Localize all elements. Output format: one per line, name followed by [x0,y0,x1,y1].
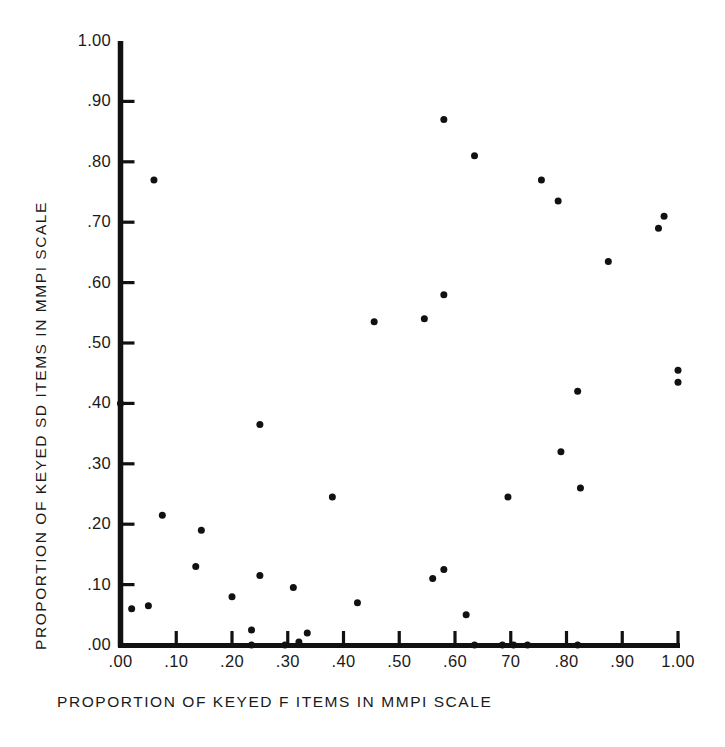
data-point [605,258,612,265]
data-point [655,225,662,232]
data-point [229,593,236,600]
data-point [499,642,506,649]
data-point [574,642,581,649]
x-axis-tick-label: .20 [205,652,259,671]
data-point [192,563,199,570]
data-point [248,626,255,633]
x-axis-title: PROPORTION OF KEYED F ITEMS IN MMPI SCAL… [57,690,677,714]
data-point [429,575,436,582]
y-axis-tick-label: .60 [53,273,111,292]
data-point [471,642,478,649]
x-axis-tick-label: .00 [94,652,148,671]
data-point [510,642,517,649]
x-axis-tick-label: .90 [595,652,649,671]
y-axis-tick-label: .70 [53,212,111,231]
data-point [159,512,166,519]
data-point [555,198,562,205]
y-axis-tick-label: .20 [53,514,111,533]
x-axis-tick-label: .60 [428,652,482,671]
x-axis-tick-label: 1.00 [651,652,705,671]
data-point [150,176,157,183]
x-axis-tick-label: .10 [149,652,203,671]
data-point [421,315,428,322]
data-point [290,584,297,591]
x-axis-tick-label: .30 [261,652,315,671]
x-axis-tick-label: .80 [540,652,594,671]
data-point [524,642,531,649]
x-axis-tick-label: 70 [484,652,538,671]
y-axis-tick-label: .90 [53,91,111,110]
data-point [440,291,447,298]
data-point [145,602,152,609]
data-point [577,484,584,491]
data-points [117,116,682,648]
data-point [329,494,336,501]
data-point [440,116,447,123]
data-point [463,611,470,618]
y-axis-tick-label: .80 [53,152,111,171]
data-point [661,213,668,220]
y-axis-tick-label: .40 [53,393,111,412]
axes [118,41,680,647]
data-point [117,400,124,407]
data-point [248,642,255,649]
data-point [354,599,361,606]
x-axis-tick-label: .50 [372,652,426,671]
data-point [538,176,545,183]
data-point [256,421,263,428]
y-axis-tick-label: .10 [53,575,111,594]
data-point [440,566,447,573]
data-point [256,572,263,579]
data-point [471,152,478,159]
data-point [371,318,378,325]
data-point [128,605,135,612]
data-point [504,494,511,501]
data-point [304,629,311,636]
data-point [557,448,564,455]
data-point [295,638,302,645]
data-point [281,642,288,649]
data-point [675,367,682,374]
y-axis-tick-label: .30 [53,454,111,473]
y-axis-tick-label: .50 [53,333,111,352]
data-point [574,388,581,395]
y-axis-title: PROPORTION OF KEYED SD ITEMS IN MMPI SCA… [28,10,54,650]
data-point [675,379,682,386]
y-axis-ticks [123,101,135,584]
y-axis-tick-label: 1.00 [53,31,111,50]
scatter-plot-figure: PROPORTION OF KEYED SD ITEMS IN MMPI SCA… [0,0,725,747]
data-point [198,527,205,534]
x-axis-tick-label: .40 [317,652,371,671]
